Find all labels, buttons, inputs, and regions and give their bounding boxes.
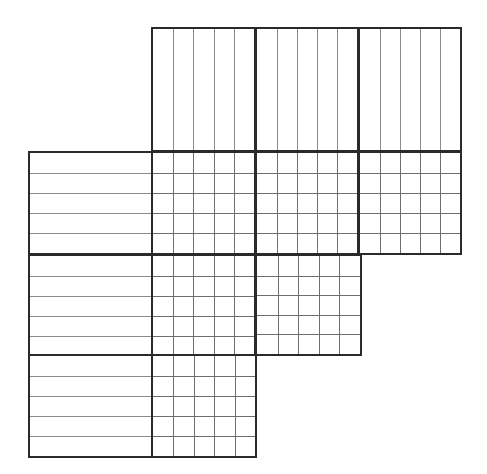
grid-line-horizontal — [30, 296, 151, 297]
grid-line-horizontal — [30, 416, 151, 417]
grid-line-horizontal — [153, 336, 254, 337]
grid-line-vertical — [193, 256, 194, 356]
grid-line-vertical — [440, 29, 441, 150]
grid-line-horizontal — [30, 233, 151, 234]
grid-line-vertical — [234, 256, 235, 356]
grid-line-vertical — [214, 153, 215, 253]
grid-line-vertical — [380, 29, 381, 150]
grid-block-6[interactable] — [151, 354, 257, 458]
grid-line-vertical — [278, 256, 279, 354]
grid-line-horizontal — [30, 316, 151, 317]
grid-line-horizontal — [257, 233, 357, 234]
row-clue-block-3[interactable] — [28, 354, 153, 458]
grid-line-horizontal — [153, 193, 254, 194]
grid-line-vertical — [317, 29, 318, 150]
grid-line-horizontal — [257, 213, 357, 214]
grid-line-horizontal — [153, 296, 254, 297]
grid-line-vertical — [380, 153, 381, 253]
grid-line-horizontal — [360, 233, 460, 234]
grid-line-vertical — [234, 153, 235, 253]
grid-line-horizontal — [153, 233, 254, 234]
column-clue-block-2[interactable] — [255, 27, 359, 152]
grid-line-vertical — [298, 256, 299, 354]
grid-line-horizontal — [257, 193, 357, 194]
grid-line-horizontal — [153, 436, 255, 437]
grid-line-vertical — [319, 256, 320, 354]
grid-line-vertical — [337, 153, 338, 253]
grid-line-horizontal — [153, 173, 254, 174]
grid-line-horizontal — [30, 336, 151, 337]
grid-line-vertical — [214, 29, 215, 150]
column-clue-block-1[interactable] — [151, 27, 256, 152]
grid-line-horizontal — [257, 315, 360, 316]
grid-line-vertical — [297, 29, 298, 150]
grid-line-horizontal — [257, 295, 360, 296]
grid-line-vertical — [337, 29, 338, 150]
grid-line-vertical — [214, 256, 215, 356]
grid-line-horizontal — [257, 334, 360, 335]
grid-line-vertical — [193, 29, 194, 150]
grid-line-horizontal — [257, 173, 357, 174]
grid-line-vertical — [277, 153, 278, 253]
grid-line-vertical — [400, 29, 401, 150]
grid-line-vertical — [235, 356, 236, 456]
grid-line-horizontal — [360, 213, 460, 214]
row-clue-block-1[interactable] — [28, 151, 153, 255]
grid-line-horizontal — [30, 193, 151, 194]
grid-line-vertical — [173, 256, 174, 356]
grid-line-horizontal — [30, 276, 151, 277]
grid-line-vertical — [440, 153, 441, 253]
grid-line-vertical — [400, 153, 401, 253]
grid-line-horizontal — [30, 396, 151, 397]
grid-line-horizontal — [30, 376, 151, 377]
grid-line-vertical — [173, 356, 174, 456]
grid-line-vertical — [214, 356, 215, 456]
grid-line-vertical — [339, 256, 340, 354]
row-clue-block-2[interactable] — [28, 254, 153, 358]
grid-line-horizontal — [30, 213, 151, 214]
grid-line-horizontal — [153, 416, 255, 417]
column-clue-block-3[interactable] — [358, 27, 462, 152]
grid-line-vertical — [420, 153, 421, 253]
grid-line-vertical — [173, 29, 174, 150]
grid-line-horizontal — [153, 396, 255, 397]
grid-block-1[interactable] — [151, 151, 256, 255]
grid-line-vertical — [173, 153, 174, 253]
grid-block-4[interactable] — [151, 254, 256, 358]
grid-line-horizontal — [153, 316, 254, 317]
grid-line-horizontal — [257, 276, 360, 277]
grid-line-horizontal — [360, 173, 460, 174]
grid-line-vertical — [194, 356, 195, 456]
grid-line-horizontal — [153, 376, 255, 377]
grid-block-5[interactable] — [255, 254, 362, 356]
grid-line-vertical — [234, 29, 235, 150]
grid-block-2[interactable] — [255, 151, 359, 255]
grid-line-vertical — [317, 153, 318, 253]
grid-line-horizontal — [360, 193, 460, 194]
grid-line-vertical — [193, 153, 194, 253]
grid-line-vertical — [277, 29, 278, 150]
grid-line-horizontal — [30, 436, 151, 437]
grid-line-vertical — [420, 29, 421, 150]
grid-line-vertical — [297, 153, 298, 253]
grid-line-horizontal — [30, 173, 151, 174]
grid-line-horizontal — [153, 213, 254, 214]
grid-line-horizontal — [153, 276, 254, 277]
grid-block-3[interactable] — [358, 151, 462, 255]
